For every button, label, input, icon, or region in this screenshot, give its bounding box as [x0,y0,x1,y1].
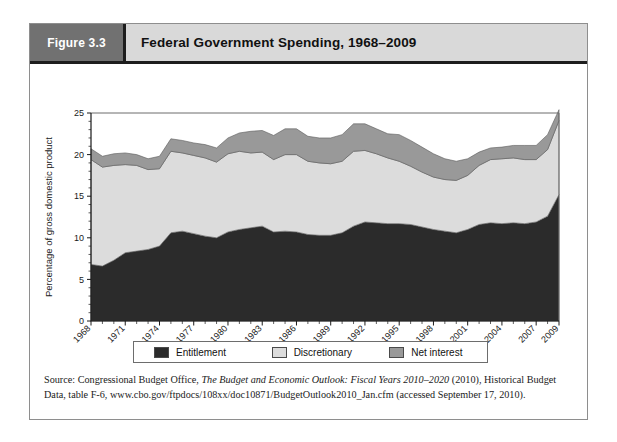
svg-text:2009: 2009 [539,323,560,344]
svg-text:20: 20 [74,150,84,160]
legend-swatch-discretionary [272,347,287,358]
legend-item-entitlement: Entitlement [134,347,252,358]
svg-text:25: 25 [74,108,84,118]
svg-text:15: 15 [74,191,84,201]
svg-text:1971: 1971 [105,323,126,344]
svg-text:10: 10 [74,233,84,243]
legend-label-entitlement: Entitlement [176,347,226,358]
figure-number-label: Figure 3.3 [47,36,106,50]
stacked-area-chart: 0510152025 19681971197419771980198319861… [30,67,587,373]
chart-areas [91,110,559,321]
legend-item-net-interest: Net interest [369,347,487,358]
legend-swatch-entitlement [154,347,169,358]
figure-header: Figure 3.3 Federal Government Spending, … [30,24,587,64]
y-axis-ticks: 0510152025 [74,108,91,326]
chart-plot-area: 0510152025 19681971197419771980198319861… [30,67,587,373]
source-prefix: Source: Congressional Budget Office, [44,374,201,385]
svg-text:2007: 2007 [516,323,537,344]
svg-text:5: 5 [79,275,84,285]
figure-title-box: Federal Government Spending, 1968–2009 [126,24,587,61]
legend-swatch-net-interest [389,347,404,358]
source-publication-title: The Budget and Economic Outlook: Fiscal … [201,374,449,385]
y-axis-title: Percentage of gross domestic product [43,137,54,297]
source-note: Source: Congressional Budget Office, The… [44,372,574,402]
legend-item-discretionary: Discretionary [252,347,370,358]
chart-legend: Entitlement Discretionary Net interest [133,341,488,363]
svg-text:1968: 1968 [71,323,92,344]
legend-label-net-interest: Net interest [411,347,462,358]
figure-number-box: Figure 3.3 [30,24,126,61]
figure-title: Federal Government Spending, 1968–2009 [141,35,416,50]
y-axis-title-text: Percentage of gross domestic product [43,137,54,297]
legend-label-discretionary: Discretionary [294,347,352,358]
figure-card: Figure 3.3 Federal Government Spending, … [29,23,588,420]
